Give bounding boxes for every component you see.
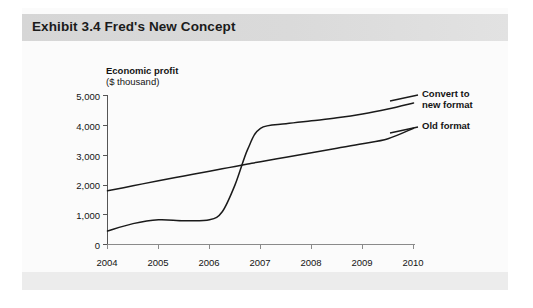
- exhibit-title: Exhibit 3.4 Fred's New Concept: [32, 19, 236, 34]
- y-tick-label-3000: 3,000: [58, 151, 100, 162]
- series-line-old-format: [108, 128, 414, 191]
- x-tick-label-2010: 2010: [392, 257, 434, 268]
- y-axis-ticks: [103, 96, 108, 245]
- x-tick-label-2007: 2007: [239, 257, 281, 268]
- y-axis-units: ($ thousand): [106, 76, 159, 87]
- series-label-old-format: Old format: [422, 121, 470, 132]
- y-tick-label-4000: 4,000: [58, 121, 100, 132]
- x-tick-label-2005: 2005: [137, 257, 179, 268]
- x-axis-ticks: [108, 245, 414, 250]
- leader-line-convert: [390, 95, 418, 101]
- series-label-line-1: Convert to: [422, 89, 473, 100]
- series-label-line-2: new format: [422, 100, 473, 111]
- x-tick-label-2009: 2009: [341, 257, 383, 268]
- figure-content-panel: Exhibit 3.4 Fred's New Concept Economic …: [22, 8, 508, 290]
- y-axis-title: Economic profit: [106, 65, 178, 76]
- exhibit-figure: Exhibit 3.4 Fred's New Concept Economic …: [0, 0, 533, 308]
- chart-svg: [22, 41, 508, 257]
- y-tick-label-1000: 1,000: [58, 210, 100, 221]
- y-tick-label-0: 0: [58, 240, 100, 251]
- y-tick-label-5000: 5,000: [58, 91, 100, 102]
- figure-bottom-band: [22, 272, 508, 290]
- x-tick-label-2006: 2006: [188, 257, 230, 268]
- x-tick-label-2008: 2008: [290, 257, 332, 268]
- chart-plot-area: Economic profit ($ thousand) 5,000 4,000…: [22, 41, 508, 257]
- x-tick-label-2004: 2004: [86, 257, 128, 268]
- y-tick-label-2000: 2,000: [58, 180, 100, 191]
- series-label-convert-to-new-format: Convert to new format: [422, 89, 473, 110]
- series-line-convert-to-new-format: [108, 103, 414, 231]
